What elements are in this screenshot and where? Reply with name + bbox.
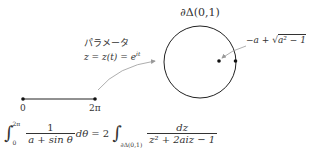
- point-label: −a + √a² − 1: [246, 35, 306, 45]
- parameter-formula-base: z = z(t) = e: [84, 52, 136, 62]
- parameter-formula: z = z(t) = eit: [84, 50, 140, 62]
- parameter-formula-exponent: it: [136, 50, 140, 57]
- inner-point: [217, 59, 221, 63]
- segment-end-label: 2π: [89, 103, 101, 113]
- left-integral-limits: 2π 0: [12, 120, 20, 146]
- point-label-radicand: a² − 1: [278, 34, 306, 45]
- integral-equation: ∫ 2π 0 1 a + sin θ dθ = 2 ∫ ∂Δ(0,1) dz z…: [4, 115, 217, 151]
- segment-start-point: [21, 97, 25, 101]
- right-fraction: dz z² + 2aiz − 1: [147, 122, 217, 145]
- contour-subscript: ∂Δ(0,1): [121, 141, 143, 148]
- parameter-title: パラメータ: [84, 36, 129, 49]
- right-denominator: z² + 2aiz − 1: [147, 133, 217, 145]
- unit-circle: [164, 26, 236, 98]
- lower-limit: 0: [12, 139, 20, 146]
- equals-two: = 2: [91, 128, 109, 139]
- parametrization-arrow: [98, 61, 155, 90]
- circle-label: ∂Δ(0,1): [180, 6, 220, 19]
- segment-end-point: [93, 97, 97, 101]
- upper-limit: 2π: [12, 120, 20, 127]
- boundary-point: [234, 59, 238, 63]
- integral-sign-right: ∫: [112, 124, 121, 142]
- left-denominator: a + sin θ: [26, 133, 75, 145]
- point-pointer-arrow: [222, 46, 246, 58]
- left-fraction: 1 a + sin θ: [26, 122, 75, 145]
- differential-theta: dθ: [76, 128, 88, 139]
- left-numerator: 1: [45, 122, 55, 133]
- segment-start-label: 0: [20, 103, 26, 113]
- right-numerator: dz: [174, 122, 190, 133]
- point-label-prefix: −a +: [246, 35, 272, 45]
